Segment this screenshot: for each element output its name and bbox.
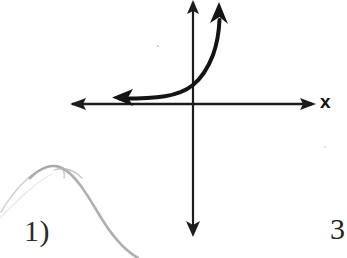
y-axis [186, 0, 200, 237]
scan-speck-artifact [157, 45, 326, 148]
scan-smudge-artifact [0, 166, 138, 258]
x-axis-label: x [320, 92, 331, 111]
problem-number-3: 3 [330, 214, 347, 244]
problem-number-1: 1) [24, 216, 50, 246]
exponential-curve [112, 2, 228, 106]
graph-canvas [0, 0, 347, 258]
worksheet-page: x 1) 3 [0, 0, 347, 258]
